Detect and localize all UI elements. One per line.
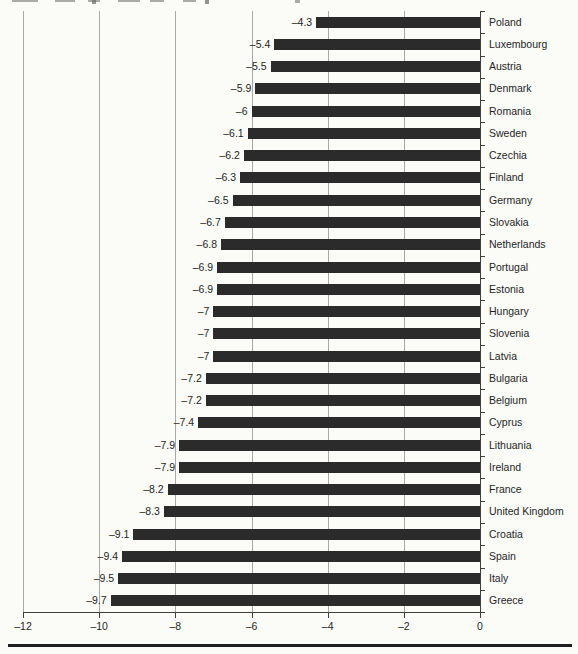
text-fragment — [150, 0, 164, 2]
category-boundary-tick — [481, 56, 485, 57]
text-fragment — [118, 0, 140, 2]
category-boundary-tick — [481, 122, 485, 123]
category-boundary-tick — [481, 345, 485, 346]
category-boundary-tick — [481, 478, 485, 479]
category-label: Finland — [489, 171, 523, 184]
bar-latvia — [213, 351, 480, 362]
bar-germany — [233, 195, 481, 206]
category-label: Croatia — [489, 528, 523, 541]
bar-value-label: –5.9 — [181, 82, 251, 95]
category-label: Italy — [489, 572, 508, 585]
x-tick--2 — [404, 613, 405, 618]
gridline-x--12 — [23, 11, 24, 612]
category-label: Cyprus — [489, 416, 522, 429]
bar-slovenia — [213, 328, 480, 339]
bar-value-label: –4.3 — [242, 16, 312, 29]
category-boundary-tick — [481, 590, 485, 591]
x-tick--6 — [252, 613, 253, 618]
category-boundary-tick — [481, 189, 485, 190]
bar-value-label: –7.9 — [105, 439, 175, 452]
bar-value-label: –8.3 — [90, 505, 160, 518]
category-label: Sweden — [489, 127, 527, 140]
text-fragment — [12, 0, 38, 2]
category-label: France — [489, 483, 522, 496]
bar-croatia — [133, 529, 480, 540]
x-tick-label: 0 — [460, 620, 500, 633]
category-label: Germany — [489, 194, 532, 207]
category-boundary-tick — [481, 389, 485, 390]
bar-denmark — [255, 83, 480, 94]
bar-value-label: –6.2 — [170, 149, 240, 162]
category-label: Ireland — [489, 461, 521, 474]
bar-value-label: –9.4 — [48, 550, 118, 563]
bar-value-label: –7.2 — [132, 372, 202, 385]
bar-finland — [240, 172, 480, 183]
bar-estonia — [217, 284, 480, 295]
bar-sweden — [248, 128, 480, 139]
text-fragment — [295, 0, 300, 3]
category-boundary-tick — [481, 501, 485, 502]
bar-value-label: –7 — [139, 327, 209, 340]
bar-value-label: –6.8 — [147, 238, 217, 251]
category-boundary-tick — [481, 100, 485, 101]
x-tick-label: –10 — [79, 620, 119, 633]
bar-value-label: –8.2 — [94, 483, 164, 496]
category-boundary-tick — [481, 300, 485, 301]
bar-value-label: –9.5 — [44, 572, 114, 585]
category-boundary-tick — [481, 234, 485, 235]
category-label: Denmark — [489, 82, 532, 95]
bar-france — [168, 484, 480, 495]
category-boundary-tick — [481, 78, 485, 79]
category-label: Slovenia — [489, 327, 529, 340]
bar-value-label: –7.2 — [132, 394, 202, 407]
category-label: Greece — [489, 594, 523, 607]
category-label: Spain — [489, 550, 516, 563]
category-label: United Kingdom — [489, 505, 564, 518]
bar-value-label: –6.9 — [143, 283, 213, 296]
x-tick-0 — [480, 613, 481, 618]
x-tick--10 — [99, 613, 100, 618]
category-label: Slovakia — [489, 216, 529, 229]
bar-bulgaria — [206, 373, 480, 384]
category-boundary-tick — [481, 167, 485, 168]
bar-value-label: –7.4 — [124, 416, 194, 429]
bar-value-label: –6.1 — [174, 127, 244, 140]
category-boundary-tick — [481, 545, 485, 546]
category-boundary-tick — [481, 278, 485, 279]
category-label: Romania — [489, 105, 531, 118]
gridline-x--10 — [99, 11, 100, 612]
category-label: Latvia — [489, 350, 517, 363]
category-label: Portugal — [489, 261, 528, 274]
category-label: Luxembourg — [489, 38, 547, 51]
x-tick-label: –6 — [232, 620, 272, 633]
bar-czechia — [244, 150, 480, 161]
x-tick--4 — [328, 613, 329, 618]
category-label: Austria — [489, 60, 522, 73]
bar-value-label: –6.3 — [166, 171, 236, 184]
bar-value-label: –6.5 — [159, 194, 229, 207]
bar-value-label: –7 — [139, 350, 209, 363]
text-fragment — [55, 0, 75, 2]
category-boundary-tick — [481, 523, 485, 524]
bar-italy — [118, 573, 480, 584]
category-label: Czechia — [489, 149, 527, 162]
bar-slovakia — [225, 217, 480, 228]
bar-romania — [252, 106, 481, 117]
bar-value-label: –9.7 — [37, 594, 107, 607]
x-tick-label: –12 — [3, 620, 43, 633]
bar-value-label: –7.9 — [105, 461, 175, 474]
bar-cyprus — [198, 417, 480, 428]
category-label: Poland — [489, 16, 522, 29]
bar-value-label: –9.1 — [59, 528, 129, 541]
bar-value-label: –6.7 — [151, 216, 221, 229]
category-label: Lithuania — [489, 439, 532, 452]
category-boundary-tick — [481, 412, 485, 413]
x-tick-label: –2 — [384, 620, 424, 633]
bar-value-label: –7 — [139, 305, 209, 318]
scanned-bar-chart-page: –4.3Poland–5.4Luxembourg–5.5Austria–5.9D… — [0, 0, 578, 654]
category-boundary-tick — [481, 211, 485, 212]
category-label: Estonia — [489, 283, 524, 296]
category-label: Belgium — [489, 394, 527, 407]
bar-value-label: –6 — [178, 105, 248, 118]
x-tick--12 — [23, 613, 24, 618]
